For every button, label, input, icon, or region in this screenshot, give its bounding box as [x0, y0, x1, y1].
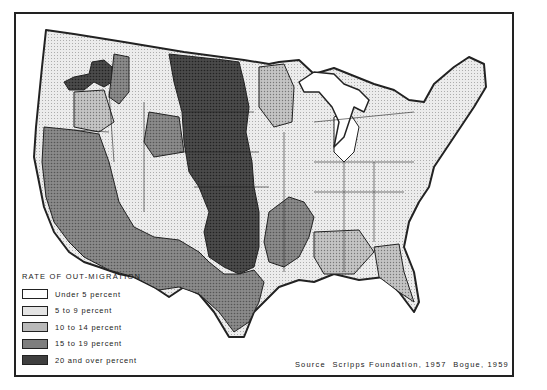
legend-item-10-14: 10 to 14 percent [22, 319, 141, 336]
region-15-19-wyo [144, 112, 184, 157]
legend-item-20-plus: 20 and over percent [22, 352, 141, 369]
legend-title: RATE OF OUT-MIGRATION [22, 272, 141, 281]
legend-item-5-9: 5 to 9 percent [22, 303, 141, 320]
source-citation: Source Scripps Foundation, 1957 Bogue, 1… [295, 360, 509, 369]
legend-label: 5 to 9 percent [55, 306, 112, 315]
legend-label: 10 to 14 percent [55, 323, 122, 332]
legend-item-15-19: 15 to 19 percent [22, 336, 141, 353]
legend-swatch [22, 322, 48, 332]
legend-swatch [22, 289, 48, 299]
legend-label: 20 and over percent [55, 356, 137, 365]
map-legend: RATE OF OUT-MIGRATION Under 5 percent 5 … [22, 272, 141, 369]
legend-swatch [22, 306, 48, 316]
legend-item-under-5: Under 5 percent [22, 286, 141, 303]
legend-label: Under 5 percent [55, 290, 121, 299]
legend-swatch [22, 339, 48, 349]
legend-label: 15 to 19 percent [55, 339, 122, 348]
legend-swatch [22, 355, 48, 365]
